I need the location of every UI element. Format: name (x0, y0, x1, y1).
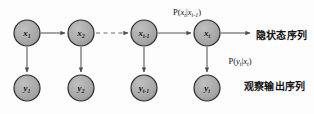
node-label-y2: y2 (78, 84, 85, 93)
hmm-diagram: x1 x2 xt-1 xt y1 y2 yt-1 yt P(xt|xt-1) P… (0, 0, 314, 114)
diagram-canvas (0, 0, 314, 114)
node-label-y1: y1 (24, 84, 31, 93)
emission-edges (27, 47, 207, 72)
emission-probability-label: P(yt|xt) (228, 57, 251, 66)
transition-probability-label: P(xt|xt-1) (173, 8, 201, 17)
node-label-xt-1: xt-1 (138, 29, 149, 38)
observed-output-nodes (14, 75, 220, 101)
hidden-state-sequence-label: 隐状态序列 (256, 27, 307, 42)
node-label-xt: xt (204, 29, 210, 38)
node-label-x1: x1 (23, 29, 31, 38)
node-label-yt-1: yt-1 (139, 84, 150, 93)
node-label-yt: yt (204, 84, 210, 93)
observed-output-sequence-label: 观察输出序列 (244, 78, 305, 93)
node-label-x2: x2 (77, 29, 85, 38)
